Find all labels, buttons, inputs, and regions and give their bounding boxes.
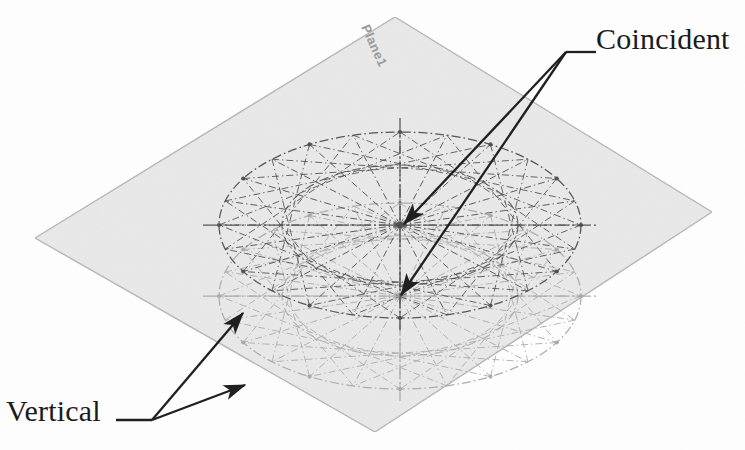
vertical-relation-label[interactable]: Vertical [6,394,101,428]
coincident-relation-label[interactable]: Coincident [596,22,730,56]
diagram-canvas: Coincident Vertical Plane1 [0,0,745,450]
sketch-geometry-svg [0,0,745,450]
scan-grain-overlay [0,0,745,450]
grain-rect [0,0,745,450]
